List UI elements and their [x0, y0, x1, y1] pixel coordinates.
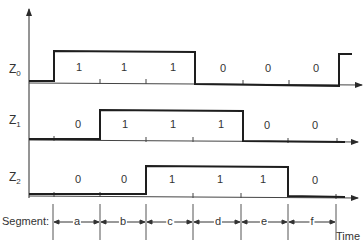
segment-caption: Segment:: [2, 215, 49, 227]
z2-value-d: 1: [217, 173, 223, 185]
z0-value-d: 0: [220, 62, 226, 74]
z2-value-e: 1: [260, 173, 266, 185]
signal-subscript: 1: [16, 120, 20, 129]
z2-value-b: 0: [121, 173, 127, 185]
z1-value-a: 0: [75, 118, 81, 130]
segment-label-d: d: [214, 215, 222, 227]
time-axis-label: Time: [336, 230, 360, 242]
timing-diagram-graphics: [0, 0, 364, 245]
timing-diagram: Z0 Z1 Z2 1 1 1 0 0 0 0 1 1 1 0 0 0 0 1 1…: [0, 0, 364, 245]
segment-label-b: b: [119, 215, 127, 227]
z0-value-a: 1: [76, 61, 82, 73]
signal-label-z1: Z1: [9, 113, 21, 129]
z0-value-e: 0: [265, 62, 271, 74]
signal-label-z2: Z2: [9, 170, 21, 186]
z1-value-b: 1: [122, 118, 128, 130]
signal-subscript: 0: [16, 69, 20, 78]
z2-value-f: 0: [312, 174, 318, 186]
segment-label-f: f: [309, 215, 314, 227]
z1-value-e: 0: [264, 119, 270, 131]
z0-value-c: 1: [170, 61, 176, 73]
z0-value-b: 1: [121, 61, 127, 73]
signal-subscript: 2: [16, 177, 20, 186]
z1-value-d: 1: [218, 118, 224, 130]
segment-arrows: [54, 220, 335, 224]
segment-label-e: e: [260, 215, 268, 227]
signal-label-z0: Z0: [9, 62, 21, 78]
segment-label-c: c: [166, 215, 174, 227]
segment-label-a: a: [73, 215, 81, 227]
z1-value-f: 0: [312, 119, 318, 131]
z1-value-c: 1: [170, 118, 176, 130]
z2-value-a: 0: [75, 173, 81, 185]
z2-value-c: 1: [169, 173, 175, 185]
z0-value-f: 0: [313, 62, 319, 74]
